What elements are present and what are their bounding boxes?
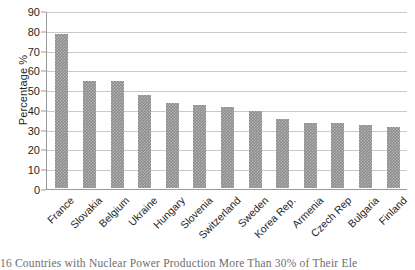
bar (138, 95, 151, 188)
plot-area (46, 12, 407, 190)
bar (331, 123, 344, 188)
x-axis-tick-label: Finland (376, 194, 409, 227)
bar-series (48, 12, 407, 188)
bar-slot (76, 12, 104, 188)
bar-chart: Percentage % 9080706050403020100 FranceS… (0, 0, 415, 200)
y-axis-tick-label: 90 (28, 6, 40, 18)
bar (359, 125, 372, 188)
x-axis-tick-label: Belgium (96, 194, 131, 229)
figure-caption: 16 Countries with Nuclear Power Producti… (0, 258, 415, 270)
bar-slot (186, 12, 214, 188)
x-axis-label-slot: Belgium (102, 190, 130, 252)
bar (304, 123, 317, 188)
bar-slot (324, 12, 352, 188)
bar (221, 107, 234, 188)
bar (249, 111, 262, 188)
bar-slot (241, 12, 269, 188)
bar-slot (352, 12, 380, 188)
bar-slot (48, 12, 76, 188)
figure-caption-text: 16 Countries with Nuclear Power Producti… (0, 258, 415, 269)
y-axis-tick-label: 0 (34, 184, 40, 196)
bar-slot (158, 12, 186, 188)
bar (193, 105, 206, 188)
y-axis-tick-label: 20 (28, 144, 40, 156)
y-axis-tick-label: 10 (28, 164, 40, 176)
bar-slot (269, 12, 297, 188)
bar (55, 34, 68, 188)
bar (111, 81, 124, 188)
bar (276, 119, 289, 188)
bar-slot (103, 12, 131, 188)
x-axis-category-labels: FranceSlovakiaBelgiumUkraineHungarySlove… (47, 190, 407, 252)
bar-slot (379, 12, 407, 188)
x-axis-label-slot: Finland (379, 190, 407, 252)
bar (387, 127, 400, 188)
y-axis-tick-label: 50 (28, 85, 40, 97)
bar-slot (214, 12, 242, 188)
figure: Percentage % 9080706050403020100 FranceS… (0, 0, 415, 270)
bar-slot (131, 12, 159, 188)
y-axis-tick-label: 60 (28, 65, 40, 77)
y-axis-tick-labels: 9080706050403020100 (14, 12, 40, 190)
y-axis-tick-label: 30 (28, 125, 40, 137)
bar (83, 81, 96, 188)
y-axis-tick-label: 80 (28, 26, 40, 38)
y-axis-tick-label: 70 (28, 46, 40, 58)
bar-slot (296, 12, 324, 188)
y-axis-tick-label: 40 (28, 105, 40, 117)
x-axis-label-slot: Bulgaria (352, 190, 380, 252)
bar (166, 103, 179, 188)
